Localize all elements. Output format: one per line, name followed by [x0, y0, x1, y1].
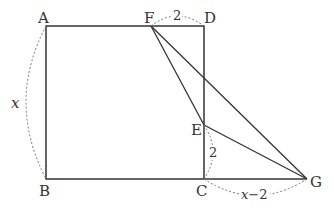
segment-fe	[151, 26, 204, 125]
label-b: B	[39, 182, 50, 200]
label-d: D	[204, 9, 216, 27]
measure-ec: 2	[209, 145, 217, 160]
measure-cg-rest: −2	[248, 187, 267, 202]
geometry-diagram: A F D B C E G x 2 2 x−2	[0, 0, 334, 210]
label-f: F	[144, 9, 154, 27]
measure-cg: x−2	[241, 187, 268, 202]
label-a: A	[37, 9, 49, 27]
segment-eg	[204, 125, 307, 179]
label-g: G	[310, 173, 322, 191]
measure-fd: 2	[173, 8, 181, 23]
label-c: C	[196, 182, 207, 200]
label-e: E	[191, 121, 202, 139]
segment-fg	[151, 26, 307, 179]
square-abcd	[46, 26, 204, 179]
measure-ab: x	[11, 94, 20, 112]
arc-ab	[26, 26, 46, 179]
